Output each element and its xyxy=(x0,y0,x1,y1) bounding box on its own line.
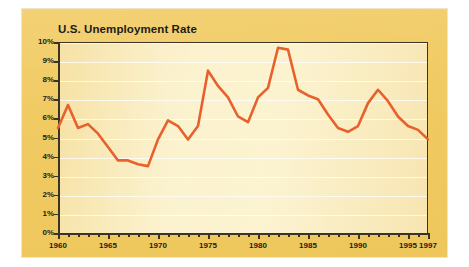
x-axis-minor-tick xyxy=(268,233,270,237)
x-axis-tick-label: 1997 xyxy=(419,242,437,250)
x-axis-minor-tick xyxy=(218,233,220,237)
x-axis-minor-tick xyxy=(368,233,370,237)
y-axis-tick-label: 6% xyxy=(42,114,54,122)
x-axis-tick-label: 1965 xyxy=(99,242,117,250)
series-line xyxy=(58,48,428,166)
x-axis-major-tick xyxy=(408,233,410,239)
x-axis-minor-tick xyxy=(148,233,150,237)
x-axis-minor-tick xyxy=(198,233,200,237)
x-axis-major-tick xyxy=(158,233,160,239)
x-axis-minor-tick xyxy=(298,233,300,237)
x-axis-minor-tick xyxy=(278,233,280,237)
y-axis-tick-label: 2% xyxy=(42,191,54,199)
x-axis-minor-tick xyxy=(168,233,170,237)
y-axis-tick-label: 7% xyxy=(42,95,54,103)
x-axis-tick-marks xyxy=(58,233,429,240)
x-axis-minor-tick xyxy=(228,233,230,237)
y-axis-tick-label: 4% xyxy=(42,153,54,161)
x-axis-major-tick xyxy=(108,233,110,239)
x-axis-minor-tick xyxy=(178,233,180,237)
chart-title: U.S. Unemployment Rate xyxy=(58,23,197,35)
x-axis-minor-tick xyxy=(68,233,70,237)
y-axis-tick-label: 1% xyxy=(42,210,54,218)
x-axis-tick-label: 1960 xyxy=(49,242,67,250)
x-axis-tick-label: 1975 xyxy=(199,242,217,250)
x-axis-minor-tick xyxy=(378,233,380,237)
chart-figure: U.S. Unemployment Rate 0%1%2%3%4%5%6%7%8… xyxy=(22,9,447,257)
x-axis-minor-tick xyxy=(248,233,250,237)
x-axis-minor-tick xyxy=(338,233,340,237)
y-axis-tick-label: 10% xyxy=(38,38,54,46)
x-axis-tick-label: 1995 xyxy=(399,242,417,250)
y-axis-tick-label: 5% xyxy=(42,134,54,142)
x-axis-tick-label: 1970 xyxy=(149,242,167,250)
x-axis-tick-label: 1990 xyxy=(349,242,367,250)
y-axis-tick-label: 3% xyxy=(42,172,54,180)
y-axis-tick-label: 9% xyxy=(42,57,54,65)
x-axis-minor-tick xyxy=(418,233,420,237)
x-axis-tick-labels: 196019651970197519801985199019951997 xyxy=(22,242,447,254)
y-axis-tick-label: 0% xyxy=(42,229,54,237)
plot-area-wrapper xyxy=(58,42,428,233)
x-axis-minor-tick xyxy=(78,233,80,237)
x-axis-tick-label: 1985 xyxy=(299,242,317,250)
x-axis-major-tick xyxy=(428,233,430,239)
x-axis-tick-label: 1980 xyxy=(249,242,267,250)
x-axis-minor-tick xyxy=(348,233,350,237)
x-axis-major-tick xyxy=(358,233,360,239)
x-axis-minor-tick xyxy=(388,233,390,237)
x-axis-minor-tick xyxy=(188,233,190,237)
data-series-line xyxy=(58,42,428,233)
x-axis-minor-tick xyxy=(138,233,140,237)
x-axis-major-tick xyxy=(58,233,60,239)
y-axis-tick-label: 8% xyxy=(42,76,54,84)
x-axis-minor-tick xyxy=(128,233,130,237)
x-axis-minor-tick xyxy=(238,233,240,237)
x-axis-major-tick xyxy=(308,233,310,239)
x-axis-major-tick xyxy=(258,233,260,239)
x-axis-minor-tick xyxy=(288,233,290,237)
x-axis-minor-tick xyxy=(98,233,100,237)
x-axis-minor-tick xyxy=(328,233,330,237)
x-axis-minor-tick xyxy=(318,233,320,237)
x-axis-minor-tick xyxy=(88,233,90,237)
x-axis-minor-tick xyxy=(398,233,400,237)
x-axis-major-tick xyxy=(208,233,210,239)
y-axis-tick-labels: 0%1%2%3%4%5%6%7%8%9%10% xyxy=(22,42,54,233)
x-axis-minor-tick xyxy=(118,233,120,237)
